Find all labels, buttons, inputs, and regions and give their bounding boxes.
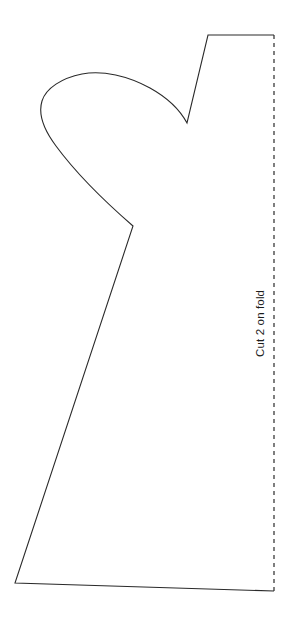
pattern-sheet: Cut 2 on fold [0,0,293,627]
sheet-background [0,0,293,627]
fold-label-text: Cut 2 on fold [254,290,266,357]
pattern-drawing: Cut 2 on fold [0,0,293,627]
